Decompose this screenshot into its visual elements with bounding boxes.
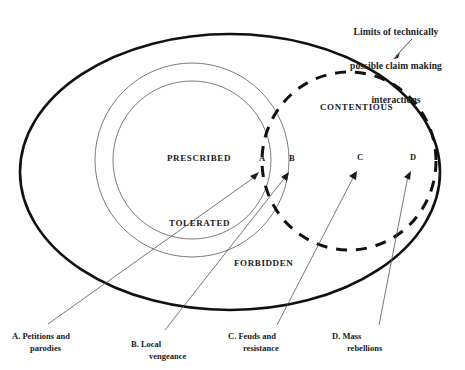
title-line-1: Limits of technically bbox=[330, 27, 462, 38]
legend-item-a: A. Petitions and parodies bbox=[12, 330, 70, 355]
diagram-canvas: Limits of technically possible claim mak… bbox=[0, 0, 465, 370]
zone-label-tolerated: TOLERATED bbox=[169, 218, 230, 229]
legend-text-b-line1: Local bbox=[141, 339, 161, 349]
legend-item-b: B. Local vengeance bbox=[131, 338, 186, 363]
legend-item-d: D. Mass rebellions bbox=[332, 330, 382, 355]
legend-text-d-line2: rebellions bbox=[332, 342, 382, 354]
legend-text-d-line1: Mass bbox=[342, 331, 361, 341]
leader-line-c bbox=[277, 171, 357, 325]
legend-text-b-line2: vengeance bbox=[131, 350, 186, 362]
title-line-2: possible claim making bbox=[330, 61, 462, 72]
legend-key-c: C. bbox=[228, 330, 236, 342]
legend-text-c-line2: resistance bbox=[228, 342, 279, 354]
zone-label-contentious: CONTENTIOUS bbox=[320, 102, 393, 113]
legend-text-c-line1: Feuds and bbox=[238, 331, 276, 341]
legend-text-a-line1: Petitions and bbox=[22, 331, 69, 341]
point-marker-b: B bbox=[289, 153, 295, 163]
zone-label-prescribed: PRESCRIBED bbox=[167, 153, 231, 164]
point-marker-d: D bbox=[410, 152, 416, 162]
point-marker-c: C bbox=[357, 152, 363, 162]
legend-item-c: C. Feuds and resistance bbox=[228, 330, 279, 355]
point-marker-a: A bbox=[259, 153, 265, 163]
legend-key-d: D. bbox=[332, 330, 340, 342]
legend-text-a-line2: parodies bbox=[12, 342, 70, 354]
zone-label-forbidden: FORBIDDEN bbox=[234, 258, 293, 269]
legend-key-a: A. bbox=[12, 330, 20, 342]
legend-key-b: B. bbox=[131, 338, 139, 350]
